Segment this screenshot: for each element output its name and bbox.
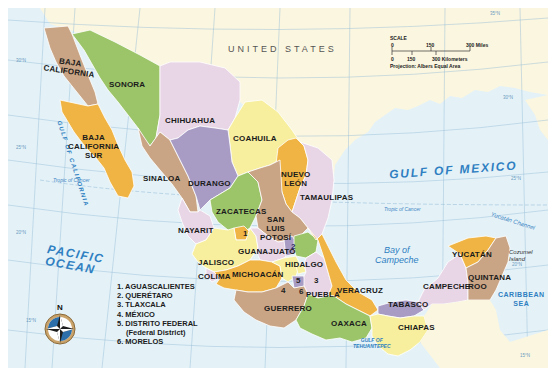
marker-3-tlaxcala: 3 — [314, 276, 318, 285]
tropic-of-cancer-label-west: Tropic of Cancer — [53, 177, 90, 183]
grid-label-30n-east: 30°N — [503, 95, 513, 100]
scale-mile-150: 150 — [426, 42, 434, 48]
label-tabasco: TABASCO — [388, 300, 428, 309]
label-jalisco: JALISCO — [198, 258, 234, 267]
legend-item-queretaro: 2. QUERÉTARO — [117, 291, 198, 300]
label-sinaloa: SINALOA — [143, 174, 180, 183]
legend-item-tlaxcala: 3. TLAXCALA — [117, 300, 198, 309]
marker-4-mexico: 4 — [281, 286, 285, 295]
label-guerrero: GUERRERO — [264, 304, 312, 313]
label-quintana-roo: QUINTANA ROO — [468, 273, 511, 291]
label-nayarit: NAYARIT — [178, 226, 214, 235]
grid-label-30n-west: 30°N — [16, 58, 26, 63]
marker-1-aguascalientes: 1 — [243, 229, 247, 238]
label-puebla: PUEBLA — [306, 290, 340, 299]
label-nuevo-leon: NUEVO LEÓN — [281, 170, 310, 188]
legend-item-aguascalientes: 1. AGUASCALIENTES — [117, 282, 198, 291]
label-veracruz: VERACRUZ — [337, 286, 383, 295]
label-zacatecas: ZACATECAS — [216, 207, 267, 216]
cozumel-island-label: Cozumel Island — [509, 249, 533, 263]
label-michoacan: MICHOACÁN — [232, 270, 284, 279]
scale-mile-0: 0 — [391, 42, 394, 48]
country-label-united-states: UNITED STATES — [228, 44, 337, 54]
grid-label-15n-east: 15°N — [520, 353, 530, 358]
marker-2-queretaro: 2 — [291, 242, 295, 251]
scale-km-0: 0 — [391, 56, 394, 62]
label-guanajuato: GUANAJUATO — [238, 247, 296, 256]
grid-label-15n-west: 15°N — [26, 318, 36, 323]
label-campeche: CAMPECHE — [423, 282, 470, 291]
scale-title: SCALE — [390, 35, 407, 41]
grid-label-35n: 35°N — [490, 11, 500, 16]
label-durango: DURANGO — [188, 179, 231, 188]
label-coahuila: COAHUILA — [233, 134, 277, 143]
caribbean-sea-label: CARIBBEAN SEA — [498, 290, 545, 308]
numbered-state-legend: 1. AGUASCALIENTES 2. QUERÉTARO 3. TLAXCA… — [117, 282, 198, 346]
gulf-of-tehuantepec-label: GULF OF TEHUANTEPEC — [353, 337, 391, 349]
label-yucatan: YUCATÁN — [452, 250, 492, 259]
label-chiapas: CHIAPAS — [398, 323, 435, 332]
bay-of-campeche-label: Bay of Campeche — [375, 245, 419, 265]
label-tamaulipas: TAMAULIPAS — [300, 193, 353, 202]
legend-item-morelos: 6. MORELOS — [117, 337, 198, 346]
tropic-of-cancer-label-east: Tropic of Cancer — [384, 206, 421, 212]
grid-label-25n-west: 25°N — [16, 145, 26, 150]
label-oaxaca: OAXACA — [331, 319, 367, 328]
label-colima: COLIMA — [198, 272, 231, 281]
marker-5-distrito-federal: 5 — [296, 276, 300, 285]
grid-label-25n-east: 25°N — [511, 176, 521, 181]
grid-label-20n-west: 20°N — [16, 230, 26, 235]
legend-item-federal-district-note: (Federal District) — [117, 328, 198, 337]
scale-km-150: 150 — [407, 56, 415, 62]
legend-item-distrito-federal: 5. DISTRITO FEDERAL — [117, 319, 198, 328]
label-baja-california-sur: BAJA CALIFORNIA SUR — [68, 133, 119, 160]
scale-km-300: 300 Kilometers — [432, 56, 468, 62]
label-hidalgo: HIDALGO — [285, 260, 323, 269]
scale-mile-300: 300 Miles — [466, 42, 488, 48]
label-sonora: SONORA — [109, 80, 145, 89]
marker-6-morelos: 6 — [299, 287, 303, 296]
projection-note: Projection: Albers Equal Area — [390, 63, 460, 69]
legend-item-mexico: 4. MÉXICO — [117, 310, 198, 319]
compass-rose — [45, 314, 75, 344]
label-san-luis-potosi: SAN LUIS POTOSÍ — [260, 215, 291, 242]
compass-north-label: N — [57, 303, 63, 312]
label-chihuahua: CHIHUAHUA — [165, 116, 215, 125]
